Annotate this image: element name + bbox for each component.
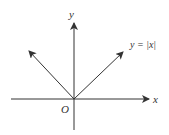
graph-canvas: y x O y = |x| [0,0,169,135]
x-axis-label: x [152,93,158,105]
right-ray [74,52,123,99]
origin-label: O [61,103,69,115]
y-axis-label: y [68,8,74,20]
abs-value-graph: y x O y = |x| [0,0,169,135]
left-ray [29,51,74,99]
function-label: y = |x| [129,39,156,50]
